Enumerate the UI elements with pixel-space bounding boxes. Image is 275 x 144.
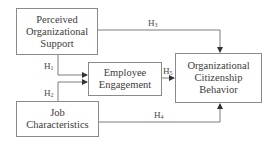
node-label: Employee Engagement [99, 67, 151, 91]
edge-label-main: H [44, 88, 51, 98]
edge-label-h1: H1 [44, 61, 54, 72]
edge-label-h4: H4 [154, 110, 164, 121]
node-organizational-citizenship-behavior: Organizational Citizenship Behavior [175, 53, 262, 103]
node-label: Organizational Citizenship Behavior [187, 60, 249, 96]
edge-h1 [58, 55, 87, 75]
edge-label-h5: H5 [163, 66, 173, 77]
edge-label-sub: 2 [51, 92, 54, 98]
node-job-characteristics: Job Characteristics [16, 101, 99, 137]
edge-h3 [98, 30, 220, 52]
edge-label-main: H [154, 110, 161, 120]
node-perceived-organizational-support: Perceived Organizational Support [16, 8, 98, 55]
edge-label-sub: 4 [161, 114, 164, 120]
edge-label-h2: H2 [44, 88, 54, 99]
edge-label-h3: H3 [148, 18, 158, 29]
edge-h2 [58, 82, 87, 101]
edge-label-main: H [163, 66, 170, 76]
research-model-diagram: Perceived Organizational Support Employe… [0, 0, 275, 144]
node-label: Job Characteristics [26, 107, 88, 131]
node-employee-engagement: Employee Engagement [88, 62, 162, 96]
edge-label-main: H [44, 61, 51, 71]
edge-label-sub: 3 [155, 22, 158, 28]
edge-label-main: H [148, 18, 155, 28]
node-label: Perceived Organizational Support [26, 14, 88, 50]
edge-label-sub: 5 [170, 70, 173, 76]
edge-label-sub: 1 [51, 65, 54, 71]
